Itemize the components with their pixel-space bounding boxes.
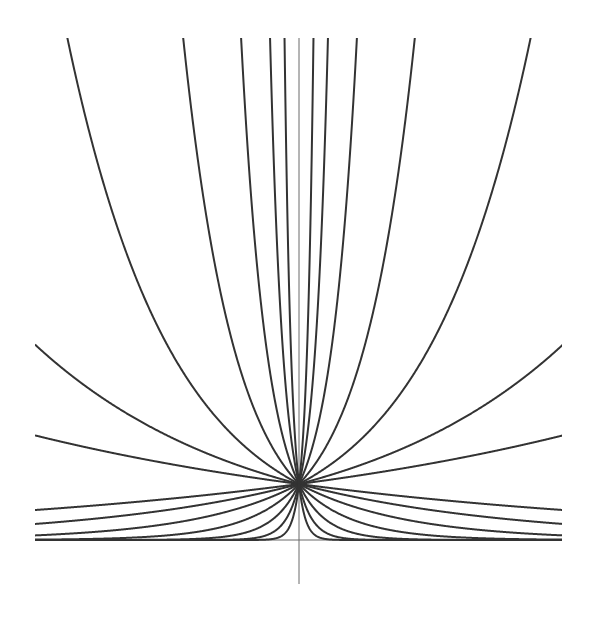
exponential-curves-plot [0,0,597,625]
